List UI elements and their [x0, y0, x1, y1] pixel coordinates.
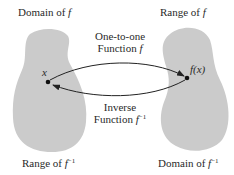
domain-of-f-inverse-label: Domain of f−1: [158, 157, 219, 169]
function-inverse-diagram: [0, 0, 234, 175]
point-x-dot: [46, 80, 51, 85]
forward-function-label: One-to-one Function f: [90, 30, 150, 54]
range-blob: [161, 28, 229, 151]
point-x-label: x: [42, 66, 47, 78]
point-fx-dot: [185, 76, 190, 81]
range-of-f-label: Range of f: [160, 6, 206, 18]
domain-blob: [13, 29, 86, 152]
range-of-f-inverse-label: Range of f−1: [22, 157, 75, 169]
point-fx-label: f(x): [190, 63, 205, 75]
domain-of-f-label: Domain of f: [18, 6, 71, 18]
inverse-function-label: Inverse Function f−1: [90, 101, 150, 125]
